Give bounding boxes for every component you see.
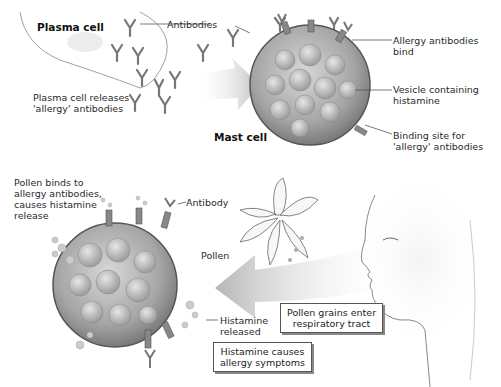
mast-cell-degranulating: [52, 196, 198, 368]
pollen-enter-box: Pollen grains enter respiratory tract: [280, 303, 383, 333]
histamine-symptoms-box: Histamine causes allergy symptoms: [213, 342, 312, 372]
antibody-label: Antibody: [186, 197, 228, 208]
pollen-label: Pollen: [201, 250, 229, 261]
plasma-release-label: Plasma cell releases 'allergy' antibodie…: [33, 92, 129, 114]
pollen-binds-label: Pollen binds to allergy antibodies, caus…: [14, 177, 102, 221]
histamine-released-label: Histamine released: [220, 315, 268, 337]
mast-cell: [250, 14, 370, 145]
plasma-cell-label: Plasma cell: [37, 22, 104, 33]
allergy-bind-label: Allergy antibodies bind: [393, 35, 501, 57]
lily-flower: [240, 178, 318, 265]
antibodies-label: Antibodies: [167, 19, 217, 30]
binding-site-label: Binding site for 'allergy' antibodies: [393, 130, 483, 152]
mast-cell-label: Mast cell: [214, 132, 267, 143]
vesicle-label: Vesicle containing histamine: [393, 84, 479, 106]
face-profile: [350, 165, 490, 387]
